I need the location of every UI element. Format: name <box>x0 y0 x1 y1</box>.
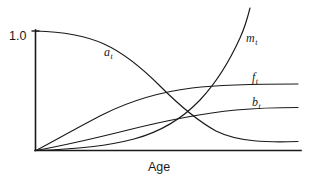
curve-label-f-subscript: t <box>256 77 258 86</box>
curve-m <box>36 8 250 151</box>
curve-label-f: ft <box>252 71 258 83</box>
line-chart-figure: 1.0 Age at mt ft bt <box>0 0 318 184</box>
curve-label-f-base: f <box>252 70 255 84</box>
curve-label-a-base: a <box>104 45 110 59</box>
curve-label-b-subscript: t <box>259 102 261 111</box>
curve-label-m: mt <box>246 32 257 44</box>
curve-label-b: bt <box>252 96 260 108</box>
curve-label-a: at <box>104 46 112 58</box>
curve-f <box>36 84 298 151</box>
x-axis-label: Age <box>0 161 318 174</box>
curve-label-a-subscript: t <box>111 52 113 61</box>
curve-label-b-base: b <box>252 95 258 109</box>
chart-plot-area <box>0 0 318 184</box>
y-axis-tick-label: 1.0 <box>9 30 26 43</box>
curve-label-m-base: m <box>246 31 255 45</box>
